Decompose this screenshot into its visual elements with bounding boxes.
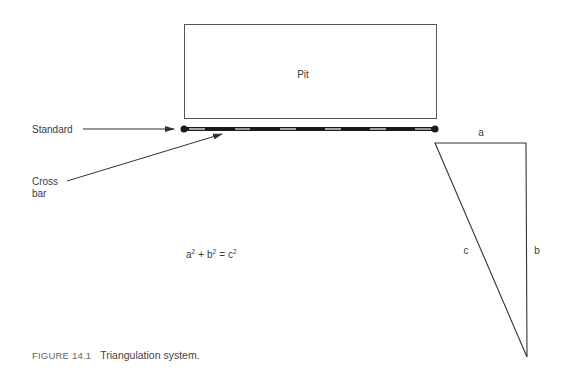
figure-title: Triangulation system. (100, 349, 199, 361)
pit-rectangle (185, 25, 437, 119)
crossbar-label-line1: Cross (32, 176, 58, 187)
standard-left-post (181, 126, 188, 133)
right-triangle (435, 143, 527, 357)
standard-right-post (432, 126, 439, 133)
crossbar-arrow (67, 134, 222, 181)
triangle-side-b-label: b (534, 245, 540, 256)
pit-label: Pit (297, 69, 309, 80)
crossbar-label-line2: bar (32, 188, 47, 199)
pythagorean-equation: a2+b2=c2 (186, 248, 237, 260)
figure-caption: FIGURE 14.1Triangulation system. (32, 349, 200, 361)
standard-label: Standard (32, 124, 73, 135)
triangle-side-a-label: a (478, 127, 484, 138)
triangle-side-c-label: c (464, 245, 469, 256)
triangulation-diagram: Pit Standard Cross bar a2+b2=c2 a b c (0, 0, 567, 379)
figure-number: FIGURE 14.1 (32, 350, 91, 361)
